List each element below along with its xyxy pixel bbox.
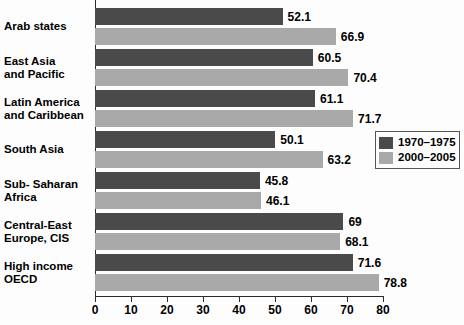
- bar-value-label: 63.2: [328, 153, 351, 167]
- axis-tick-label-10: 10: [124, 303, 137, 317]
- legend-swatch-icon-1: [379, 152, 393, 164]
- bar: [95, 192, 261, 209]
- axis-tick-label-30: 30: [196, 303, 209, 317]
- axis-tick-50: [275, 297, 276, 302]
- category-label: Sub- Saharan Africa: [4, 178, 92, 204]
- bar-value-label: 52.1: [288, 10, 311, 24]
- axis-tick-40: [239, 297, 240, 302]
- bar: [95, 69, 348, 86]
- axis-tick-30: [203, 297, 204, 302]
- axis-tick-10: [131, 297, 132, 302]
- axis-tick-label-20: 20: [160, 303, 173, 317]
- legend-label-0: 1970–1975: [398, 136, 456, 149]
- category-label: High income OECD: [4, 260, 92, 286]
- axis-tick-0: [95, 297, 96, 302]
- category-label: South Asia: [4, 143, 92, 156]
- bar-value-label: 66.9: [341, 30, 364, 44]
- category-label: Latin America and Caribbean: [4, 96, 92, 122]
- axis-tick-20: [167, 297, 168, 302]
- category-label: East Asia and Pacific: [4, 55, 92, 81]
- axis-tick-label-40: 40: [232, 303, 245, 317]
- bar-value-label: 46.1: [266, 194, 289, 208]
- bar: [95, 254, 353, 271]
- axis-tick-label-80: 80: [376, 303, 389, 317]
- bar-chart: 01020304050607080 Arab statesEast Asia a…: [0, 0, 464, 325]
- bar: [95, 233, 340, 250]
- bar: [95, 110, 353, 127]
- bar: [95, 131, 275, 148]
- bar: [95, 172, 260, 189]
- bar: [95, 274, 379, 291]
- axis-tick-label-0: 0: [92, 303, 99, 317]
- axis-tick-60: [311, 297, 312, 302]
- bar-value-label: 70.4: [353, 71, 376, 85]
- bar-value-label: 71.7: [358, 112, 381, 126]
- category-label: Arab states: [4, 20, 92, 33]
- legend-item-1: 2000–2005: [379, 150, 456, 165]
- bar: [95, 213, 343, 230]
- axis-tick-80: [383, 297, 384, 302]
- bar-value-label: 68.1: [345, 235, 368, 249]
- bar-value-label: 71.6: [358, 256, 381, 270]
- bar-value-label: 78.8: [384, 276, 407, 290]
- axis-tick-label-70: 70: [340, 303, 353, 317]
- legend-swatch-icon-0: [379, 137, 393, 149]
- bar: [95, 49, 313, 66]
- bar-value-label: 60.5: [318, 51, 341, 65]
- legend-label-1: 2000–2005: [398, 151, 456, 164]
- legend-item-0: 1970–1975: [379, 135, 456, 150]
- chart-legend: 1970–1975 2000–2005: [375, 131, 460, 169]
- bar-value-label: 50.1: [280, 133, 303, 147]
- bar-value-label: 61.1: [320, 92, 343, 106]
- bar: [95, 90, 315, 107]
- bar: [95, 8, 283, 25]
- bar-value-label: 69: [348, 215, 361, 229]
- axis-tick-70: [347, 297, 348, 302]
- bar-value-label: 45.8: [265, 174, 288, 188]
- axis-tick-label-50: 50: [268, 303, 281, 317]
- category-label: Central-East Europe, CIS: [4, 219, 92, 245]
- bar: [95, 151, 323, 168]
- axis-tick-label-60: 60: [304, 303, 317, 317]
- bar: [95, 28, 336, 45]
